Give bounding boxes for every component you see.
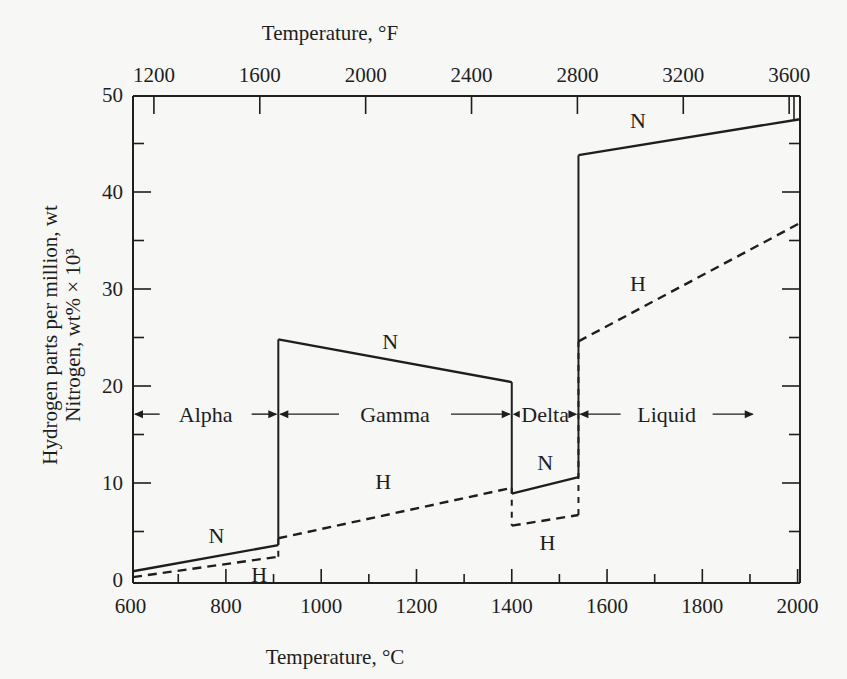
- arrowhead-left-icon: [513, 411, 520, 418]
- x2-tick-label: 3200: [662, 63, 704, 87]
- series-N-liquid-segment: [578, 119, 800, 155]
- series-N-delta-segment: [512, 477, 579, 493]
- y-tick-label: 0: [113, 568, 124, 592]
- x-tick-label: 800: [210, 594, 242, 618]
- arrowhead-right-icon: [568, 410, 577, 418]
- series-label-n: N: [537, 450, 553, 475]
- x-tick-label: 1200: [395, 594, 437, 618]
- x2-tick-label: 2400: [451, 63, 493, 87]
- x2-tick-label: 1600: [239, 63, 281, 87]
- series-label-h: H: [251, 562, 267, 587]
- y-tick-label: 50: [102, 83, 123, 107]
- series-H-liquid-segment: [578, 223, 800, 341]
- arrowhead-right-icon: [268, 410, 277, 418]
- phase-label-alpha: Alpha: [179, 402, 233, 427]
- hydrogen-nitrogen-solubility-chart: 6008001000120014001600180020001200160020…: [0, 0, 847, 679]
- series-label-h: H: [630, 271, 646, 296]
- x-tick-label: 1000: [300, 594, 342, 618]
- x-tick-label: 1600: [586, 594, 628, 618]
- y-tick-label: 40: [102, 180, 123, 204]
- series-label-h: H: [375, 469, 391, 494]
- y-axis-title-line-2: Nitrogen, wt% × 10³: [61, 248, 85, 421]
- y-tick-label: 30: [102, 277, 123, 301]
- x-tick-label: 1800: [681, 594, 723, 618]
- series-labels: NHNHNHNH: [208, 108, 646, 587]
- x2-tick-label: 2000: [345, 63, 387, 87]
- series-lines: [133, 119, 800, 577]
- y-tick-label: 10: [102, 471, 123, 495]
- series-label-n: N: [382, 329, 398, 354]
- arrowhead-right-icon: [745, 410, 754, 418]
- y-tick-label: 20: [102, 374, 123, 398]
- arrowhead-left-icon: [279, 410, 288, 418]
- arrowhead-right-icon: [502, 410, 511, 418]
- x2-tick-label: 2800: [556, 63, 598, 87]
- phase-label-gamma: Gamma: [360, 402, 430, 427]
- arrowhead-left-icon: [134, 410, 143, 418]
- phase-label-liquid: Liquid: [637, 402, 696, 427]
- series-label-n: N: [630, 108, 646, 133]
- y-axis-title-line-1: Hydrogen parts per million, wt: [38, 205, 62, 465]
- x-tick-label: 1400: [491, 594, 533, 618]
- x2-tick-label: 1200: [133, 63, 175, 87]
- series-H-delta-segment: [512, 515, 579, 526]
- phase-label-delta: Delta: [521, 402, 569, 427]
- series-H-gamma-segment: [278, 488, 511, 538]
- phase-region-labels: AlphaGammaDeltaLiquid: [134, 402, 754, 427]
- x-tick-label: 600: [115, 594, 147, 618]
- x2-axis-title: Temperature, °F: [262, 21, 398, 45]
- series-label-h: H: [540, 530, 556, 555]
- x2-tick-label: 3600: [768, 63, 810, 87]
- x-axis-title: Temperature, °C: [266, 645, 405, 669]
- series-label-n: N: [208, 523, 224, 548]
- x-tick-label: 2000: [777, 594, 819, 618]
- arrowhead-left-icon: [579, 410, 588, 418]
